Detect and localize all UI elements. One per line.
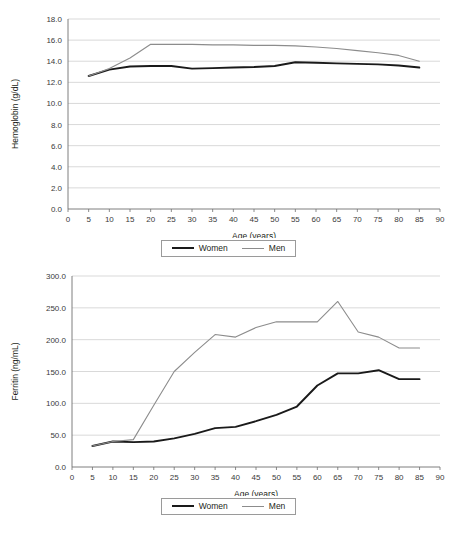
x-tick-label: 35 (211, 473, 220, 482)
x-tick-label: 75 (374, 215, 383, 224)
x-tick-label: 15 (129, 473, 138, 482)
x-tick-label: 40 (229, 215, 238, 224)
x-tick-label: 20 (149, 473, 158, 482)
x-tick-label: 30 (190, 473, 199, 482)
x-tick-label: 20 (146, 215, 155, 224)
hemoglobin-legend: Women Men (0, 240, 457, 257)
y-tick-label: 10.0 (46, 99, 62, 108)
y-tick-label: 250.0 (46, 304, 67, 313)
x-tick-label: 30 (188, 215, 197, 224)
x-tick-label: 60 (313, 473, 322, 482)
x-tick-label: 55 (291, 215, 300, 224)
x-tick-label: 10 (105, 215, 114, 224)
series-line-women (89, 62, 420, 76)
y-tick-label: 300.0 (46, 272, 67, 281)
y-tick-label: 14.0 (46, 57, 62, 66)
legend-entry-men[interactable]: Men (242, 243, 286, 253)
legend-swatch-men-icon (242, 506, 264, 507)
x-tick-label: 70 (353, 215, 362, 224)
x-tick-label: 0 (66, 215, 71, 224)
x-tick-label: 90 (436, 215, 445, 224)
x-tick-label: 80 (395, 473, 404, 482)
x-tick-label: 65 (332, 215, 341, 224)
x-tick-label: 25 (170, 473, 179, 482)
x-tick-label: 65 (333, 473, 342, 482)
legend-swatch-women-icon (172, 505, 194, 507)
y-tick-label: 12.0 (46, 78, 62, 87)
x-axis-title: Age (years) (232, 231, 276, 238)
legend-label-women: Women (199, 501, 228, 511)
legend-box: Women Men (161, 498, 297, 515)
series-line-men (89, 44, 420, 76)
y-axis-title: Ferritin (ng/mL) (10, 342, 20, 400)
y-tick-label: 18.0 (46, 15, 62, 24)
hemoglobin-plot-svg: 0.02.04.06.08.010.012.014.016.018.005101… (0, 0, 457, 238)
x-tick-label: 60 (312, 215, 321, 224)
x-tick-label: 5 (90, 473, 95, 482)
x-tick-label: 50 (272, 473, 281, 482)
y-tick-label: 200.0 (46, 336, 67, 345)
hemoglobin-plot-area: 0.02.04.06.08.010.012.014.016.018.005101… (0, 0, 457, 238)
x-tick-label: 75 (374, 473, 383, 482)
x-tick-label: 35 (208, 215, 217, 224)
x-tick-label: 70 (354, 473, 363, 482)
ferritin-plot-area: 0.050.0100.0150.0200.0250.0300.005101520… (0, 266, 457, 496)
ferritin-legend: Women Men (0, 498, 457, 515)
y-tick-label: 16.0 (46, 36, 62, 45)
legend-label-men: Men (269, 243, 286, 253)
x-tick-label: 15 (126, 215, 135, 224)
series-line-women (92, 370, 419, 446)
y-tick-label: 8.0 (51, 121, 63, 130)
x-tick-label: 45 (252, 473, 261, 482)
x-tick-label: 85 (415, 473, 424, 482)
ferritin-chart-figure: 0.050.0100.0150.0200.0250.0300.005101520… (0, 266, 457, 533)
hemoglobin-chart-figure: 0.02.04.06.08.010.012.014.016.018.005101… (0, 0, 457, 266)
x-tick-label: 45 (250, 215, 259, 224)
y-axis-title: Hemoglobin (g/dL) (10, 79, 20, 149)
y-tick-label: 150.0 (46, 368, 67, 377)
y-tick-label: 100.0 (46, 399, 67, 408)
series-line-men (92, 301, 419, 446)
x-tick-label: 55 (292, 473, 301, 482)
legend-label-women: Women (199, 243, 228, 253)
legend-entry-women[interactable]: Women (172, 243, 228, 253)
x-tick-label: 25 (167, 215, 176, 224)
x-tick-label: 80 (394, 215, 403, 224)
legend-swatch-women-icon (172, 247, 194, 249)
y-tick-label: 0.0 (51, 205, 63, 214)
x-tick-label: 5 (86, 215, 91, 224)
legend-swatch-men-icon (242, 248, 264, 249)
legend-label-men: Men (269, 501, 286, 511)
legend-entry-men[interactable]: Men (242, 501, 286, 511)
x-tick-label: 10 (108, 473, 117, 482)
x-tick-label: 40 (231, 473, 240, 482)
x-tick-label: 0 (70, 473, 75, 482)
legend-box: Women Men (161, 240, 297, 257)
x-tick-label: 90 (436, 473, 445, 482)
ferritin-plot-svg: 0.050.0100.0150.0200.0250.0300.005101520… (0, 266, 457, 496)
y-tick-label: 50.0 (50, 431, 66, 440)
x-tick-label: 85 (415, 215, 424, 224)
y-tick-label: 2.0 (51, 184, 63, 193)
y-tick-label: 6.0 (51, 142, 63, 151)
y-tick-label: 4.0 (51, 163, 63, 172)
y-tick-label: 0.0 (55, 463, 67, 472)
x-tick-label: 50 (270, 215, 279, 224)
legend-entry-women[interactable]: Women (172, 501, 228, 511)
x-axis-title: Age (years) (234, 489, 278, 496)
